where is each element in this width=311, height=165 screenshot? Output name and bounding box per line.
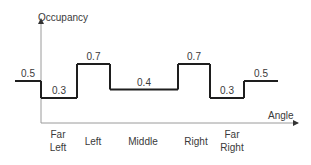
value-label: 0.7 bbox=[187, 51, 201, 62]
value-label: 0.3 bbox=[52, 85, 66, 96]
category-label: Middle bbox=[128, 136, 158, 147]
value-label: 0.5 bbox=[254, 68, 268, 79]
category-label: Left bbox=[85, 136, 102, 147]
occupancy-step-chart: Occupancy Angle 0.50.30.70.40.70.30.5 Fa… bbox=[0, 0, 311, 165]
value-label: 0.7 bbox=[87, 51, 101, 62]
category-label: Right bbox=[184, 136, 208, 147]
category-label: FarRight bbox=[220, 129, 244, 153]
value-label: 0.4 bbox=[137, 77, 151, 88]
x-axis-label: Angle bbox=[268, 110, 294, 121]
category-labels: FarLeftLeftMiddleRightFarRight bbox=[50, 129, 244, 153]
value-label: 0.5 bbox=[21, 68, 35, 79]
y-axis-label: Occupancy bbox=[38, 12, 88, 23]
value-label: 0.3 bbox=[220, 85, 234, 96]
category-label: FarLeft bbox=[50, 129, 67, 153]
